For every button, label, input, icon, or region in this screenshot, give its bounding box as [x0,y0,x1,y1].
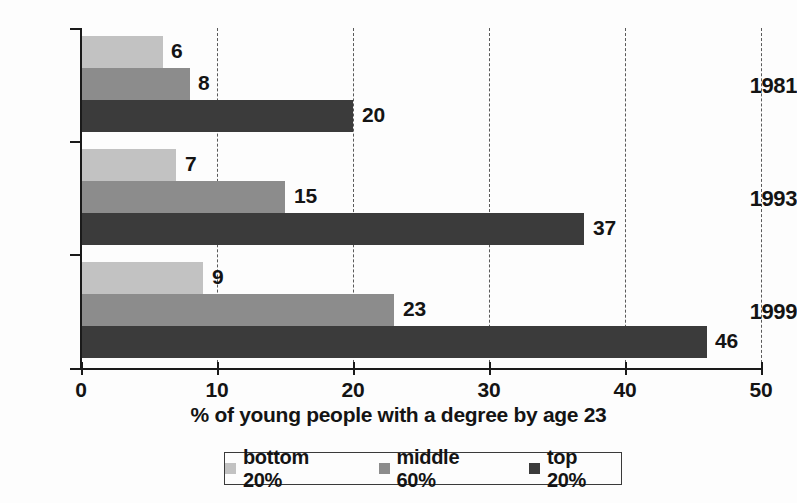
x-axis-title: % of young people with a degree by age 2… [0,403,797,427]
legend-item-top-20[interactable]: top 20% [529,446,621,492]
legend-label-middle-60: middle 60% [397,446,503,492]
legend-swatch-icon-top-20 [529,463,540,474]
legend-label-top-20: top 20% [547,446,621,492]
legend-label-bottom-20: bottom 20% [243,446,353,492]
category-label-1999: 1999 [729,299,797,325]
bar-label-1999-middle-60: 23 [403,297,426,321]
bar-1993-bottom-20 [81,149,176,181]
category-label-1993: 1993 [729,186,797,212]
x-axis-label-0: 0 [75,378,86,402]
x-axis-tick-20 [353,362,355,375]
bar-label-1993-top-20: 37 [593,216,616,240]
x-axis-label-40: 40 [614,378,637,402]
x-axis-label-20: 20 [342,378,365,402]
x-axis-label-50: 50 [750,378,773,402]
legend-swatch-icon-middle-60 [379,463,390,474]
bar-1999-middle-60 [81,294,394,326]
bar-1981-top-20 [81,100,353,132]
bar-label-1993-middle-60: 15 [294,184,317,208]
chart-legend: bottom 20% middle 60% top 20% [224,452,622,485]
category-label-1981: 1981 [729,73,797,99]
bar-label-1981-middle-60: 8 [198,71,209,95]
y-axis-tick-1 [70,141,81,143]
x-axis-label-30: 30 [478,378,501,402]
bar-chart: 6 8 20 7 15 37 9 23 46 1981 1993 1999 0 … [0,0,797,503]
y-axis-tick-2 [70,254,81,256]
legend-swatch-icon-bottom-20 [225,463,236,474]
bar-label-1981-bottom-20: 6 [171,39,182,63]
x-axis-label-10: 10 [206,378,229,402]
bar-1999-top-20 [81,326,707,358]
x-axis-tick-50 [761,362,763,375]
x-axis-tick-40 [625,362,627,375]
gridline-40 [625,28,626,368]
x-axis-tick-30 [489,362,491,375]
plot-area: 6 8 20 7 15 37 9 23 46 [81,28,761,368]
gridline-30 [489,28,490,368]
y-axis-tick-bottom [70,368,81,370]
x-axis-spine [81,368,762,370]
bar-1993-top-20 [81,213,584,245]
legend-item-bottom-20[interactable]: bottom 20% [225,446,353,492]
legend-item-middle-60[interactable]: middle 60% [379,446,503,492]
bar-label-1981-top-20: 20 [362,103,385,127]
bar-1993-middle-60 [81,181,285,213]
x-axis-tick-10 [217,362,219,375]
y-axis-spine [80,28,82,368]
bar-1999-bottom-20 [81,262,203,294]
bar-1981-bottom-20 [81,36,163,68]
bar-label-1993-bottom-20: 7 [185,152,196,176]
bar-label-1999-top-20: 46 [715,329,738,353]
bar-label-1999-bottom-20: 9 [212,265,223,289]
y-axis-tick-top [70,28,81,30]
bar-1981-middle-60 [81,68,190,100]
x-axis-tick-0 [81,362,83,375]
